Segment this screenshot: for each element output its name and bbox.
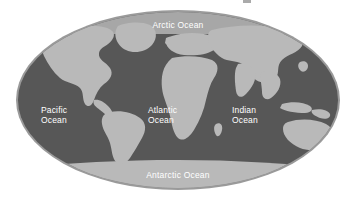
world-map-figure: Arctic Ocean Pacific Ocean Atlantic Ocea… xyxy=(0,0,356,204)
atlantic-ocean-label-line1: Atlantic xyxy=(148,105,178,115)
pacific-ocean-label-line1: Pacific xyxy=(41,105,68,115)
arctic-ocean-label: Arctic Ocean xyxy=(152,20,203,30)
top-edge-artifact xyxy=(243,0,251,3)
new-zealand-landmass xyxy=(338,149,348,158)
indian-ocean-label-line1: Indian xyxy=(232,105,256,115)
pacific-ocean-label-line2: Ocean xyxy=(41,115,67,125)
indian-ocean-label-line2: Ocean xyxy=(232,115,258,125)
antarctic-ocean-label: Antarctic Ocean xyxy=(146,170,210,180)
atlantic-ocean-label-line2: Ocean xyxy=(148,115,174,125)
world-map-svg: Arctic Ocean Pacific Ocean Atlantic Ocea… xyxy=(0,0,356,204)
